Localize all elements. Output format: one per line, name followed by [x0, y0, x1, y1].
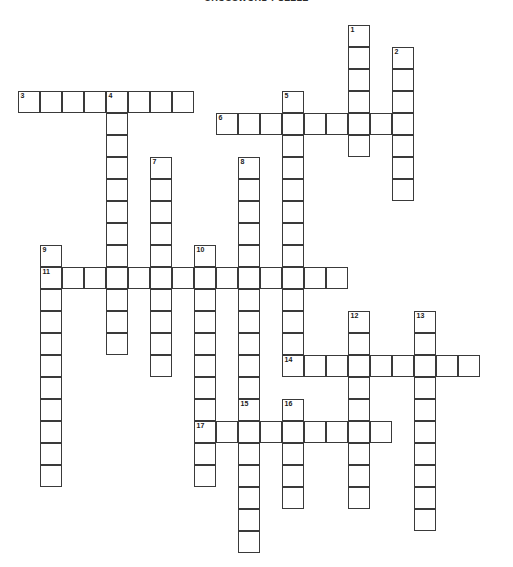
grid-cell[interactable] [238, 443, 260, 465]
grid-cell[interactable] [282, 333, 304, 355]
grid-cell[interactable]: 8 [238, 157, 260, 179]
grid-cell[interactable] [348, 421, 370, 443]
grid-cell[interactable] [194, 311, 216, 333]
grid-cell[interactable] [436, 355, 458, 377]
grid-cell[interactable] [282, 157, 304, 179]
grid-cell[interactable] [282, 113, 304, 135]
grid-cell[interactable] [348, 377, 370, 399]
grid-cell[interactable] [40, 377, 62, 399]
grid-cell[interactable] [282, 179, 304, 201]
grid-cell[interactable] [414, 333, 436, 355]
grid-cell[interactable] [326, 113, 348, 135]
grid-cell[interactable] [348, 333, 370, 355]
grid-cell[interactable] [348, 135, 370, 157]
grid-cell[interactable] [414, 377, 436, 399]
grid-cell[interactable] [40, 465, 62, 487]
grid-cell[interactable]: 15 [238, 399, 260, 421]
grid-cell[interactable] [194, 289, 216, 311]
grid-cell[interactable] [216, 267, 238, 289]
grid-cell[interactable] [282, 289, 304, 311]
crossword-grid[interactable]: 1234567891011121314151617 [0, 0, 513, 567]
grid-cell[interactable] [326, 421, 348, 443]
grid-cell[interactable] [304, 355, 326, 377]
grid-cell[interactable] [370, 421, 392, 443]
grid-cell[interactable] [238, 223, 260, 245]
grid-cell[interactable]: 4 [106, 91, 128, 113]
grid-cell[interactable] [106, 113, 128, 135]
grid-cell[interactable] [392, 113, 414, 135]
grid-cell[interactable] [392, 135, 414, 157]
grid-cell[interactable] [172, 91, 194, 113]
grid-cell[interactable] [40, 333, 62, 355]
grid-cell[interactable] [370, 355, 392, 377]
grid-cell[interactable] [348, 443, 370, 465]
grid-cell[interactable]: 1 [348, 25, 370, 47]
grid-cell[interactable] [238, 179, 260, 201]
grid-cell[interactable]: 7 [150, 157, 172, 179]
grid-cell[interactable] [238, 465, 260, 487]
grid-cell[interactable] [282, 443, 304, 465]
grid-cell[interactable]: 16 [282, 399, 304, 421]
grid-cell[interactable] [40, 443, 62, 465]
grid-cell[interactable] [84, 267, 106, 289]
grid-cell[interactable]: 12 [348, 311, 370, 333]
grid-cell[interactable]: 5 [282, 91, 304, 113]
grid-cell[interactable] [304, 113, 326, 135]
grid-cell[interactable] [40, 399, 62, 421]
grid-cell[interactable] [106, 157, 128, 179]
grid-cell[interactable] [106, 223, 128, 245]
grid-cell[interactable] [238, 421, 260, 443]
grid-cell[interactable] [194, 333, 216, 355]
grid-cell[interactable]: 14 [282, 355, 304, 377]
grid-cell[interactable] [150, 223, 172, 245]
grid-cell[interactable] [414, 355, 436, 377]
grid-cell[interactable] [194, 465, 216, 487]
grid-cell[interactable] [106, 245, 128, 267]
grid-cell[interactable] [40, 421, 62, 443]
grid-cell[interactable] [106, 179, 128, 201]
grid-cell[interactable] [238, 377, 260, 399]
grid-cell[interactable] [238, 487, 260, 509]
grid-cell[interactable]: 6 [216, 113, 238, 135]
grid-cell[interactable] [150, 245, 172, 267]
grid-cell[interactable] [62, 267, 84, 289]
grid-cell[interactable] [238, 311, 260, 333]
grid-cell[interactable] [282, 421, 304, 443]
grid-cell[interactable] [194, 443, 216, 465]
grid-cell[interactable] [238, 531, 260, 553]
grid-cell[interactable] [348, 465, 370, 487]
grid-cell[interactable] [238, 245, 260, 267]
grid-cell[interactable]: 9 [40, 245, 62, 267]
grid-cell[interactable] [150, 91, 172, 113]
grid-cell[interactable] [414, 465, 436, 487]
grid-cell[interactable] [150, 201, 172, 223]
grid-cell[interactable] [260, 113, 282, 135]
grid-cell[interactable] [370, 113, 392, 135]
grid-cell[interactable]: 2 [392, 47, 414, 69]
grid-cell[interactable] [194, 355, 216, 377]
grid-cell[interactable] [40, 289, 62, 311]
grid-cell[interactable]: 17 [194, 421, 216, 443]
grid-cell[interactable] [282, 135, 304, 157]
grid-cell[interactable] [326, 355, 348, 377]
grid-cell[interactable] [348, 47, 370, 69]
grid-cell[interactable]: 3 [18, 91, 40, 113]
grid-cell[interactable] [392, 355, 414, 377]
grid-cell[interactable] [40, 355, 62, 377]
grid-cell[interactable] [62, 91, 84, 113]
grid-cell[interactable] [348, 487, 370, 509]
grid-cell[interactable] [348, 69, 370, 91]
grid-cell[interactable] [106, 201, 128, 223]
grid-cell[interactable] [150, 179, 172, 201]
grid-cell[interactable] [414, 509, 436, 531]
grid-cell[interactable] [282, 267, 304, 289]
grid-cell[interactable]: 13 [414, 311, 436, 333]
grid-cell[interactable] [414, 421, 436, 443]
grid-cell[interactable] [150, 267, 172, 289]
grid-cell[interactable] [194, 267, 216, 289]
grid-cell[interactable] [150, 311, 172, 333]
grid-cell[interactable] [392, 91, 414, 113]
grid-cell[interactable] [128, 267, 150, 289]
grid-cell[interactable] [40, 311, 62, 333]
grid-cell[interactable] [414, 443, 436, 465]
